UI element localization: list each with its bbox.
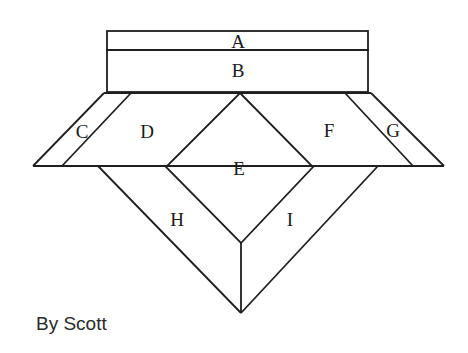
region-i-outer-edge — [241, 166, 378, 313]
region-c-outer-edge — [33, 93, 104, 166]
region-f-g-divider — [345, 93, 413, 166]
region-label-c: C — [76, 121, 89, 142]
region-label-a: A — [231, 31, 245, 52]
region-label-b: B — [232, 60, 245, 81]
region-label-i: I — [287, 209, 293, 230]
quilt-diagram: A B C D E F G H I — [0, 0, 468, 353]
region-g-outer-edge — [371, 93, 444, 166]
region-label-g: G — [386, 120, 400, 141]
region-label-f: F — [324, 120, 335, 141]
region-label-e: E — [233, 158, 245, 179]
region-label-d: D — [140, 121, 154, 142]
region-c-d-divider — [62, 93, 131, 166]
author-credit: By Scott — [36, 313, 107, 335]
region-h-outer-edge — [98, 166, 241, 313]
region-label-h: H — [170, 209, 184, 230]
